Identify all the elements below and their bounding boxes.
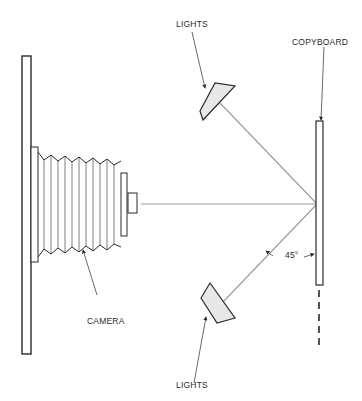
light-rays (141, 103, 317, 303)
bottom-light-icon (201, 283, 235, 323)
top-light-icon (200, 83, 235, 120)
leader-lines (83, 32, 324, 383)
camera-label: CAMERA (87, 316, 125, 326)
lights-bottom-label: LIGHTS (176, 380, 208, 390)
angle-label: 45° (285, 250, 298, 260)
lights-top-label: LIGHTS (176, 19, 208, 29)
camera-icon (31, 147, 137, 262)
copyboard-label: COPYBOARD (292, 37, 348, 47)
copy-setup-diagram (0, 0, 362, 401)
copyboard (316, 121, 323, 346)
camera-stand-panel (22, 56, 31, 354)
